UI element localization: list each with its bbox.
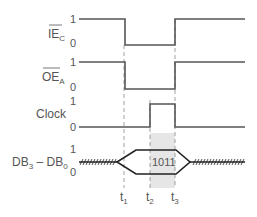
svg-text:OEA: OEA <box>42 70 65 86</box>
bus-low-label: 0 <box>70 166 76 178</box>
t1-label: t1 <box>120 190 128 206</box>
bus-signal-label: DB3 – DB0 <box>12 155 68 171</box>
bus-data-value: 1011 <box>152 156 176 168</box>
oea-high-label: 1 <box>70 56 76 68</box>
clock-waveform <box>79 104 245 127</box>
clock-signal-label: Clock <box>36 107 67 121</box>
oea-low-label: 0 <box>70 81 76 93</box>
iec-low-label: 0 <box>70 37 76 49</box>
t2-label: t2 <box>146 190 154 206</box>
clock-low-label: 0 <box>70 121 76 133</box>
bus-high-label: 1 <box>70 143 76 155</box>
oea-signal-label: OEA <box>42 68 65 86</box>
timing-diagram: 1 0 1 0 1 0 1 0 IEC OEA Clock DB3 – DB0 … <box>0 0 257 217</box>
iec-high-label: 1 <box>70 13 76 25</box>
t3-label: t3 <box>171 190 179 206</box>
iec-signal-label: IEC <box>48 25 65 43</box>
iec-waveform <box>79 19 245 45</box>
svg-text:IEC: IEC <box>48 27 65 43</box>
oea-waveform <box>79 62 245 89</box>
hatch-marks-right <box>193 159 244 165</box>
clock-high-label: 1 <box>70 95 76 107</box>
